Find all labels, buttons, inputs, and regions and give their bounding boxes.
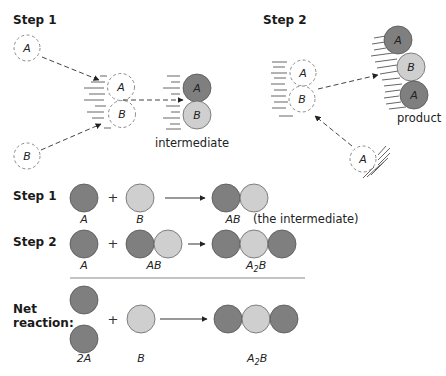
net-reaction-title-line2: reaction: bbox=[13, 316, 74, 330]
product-caption: product bbox=[397, 111, 442, 125]
step2-incoming-a-molecule: A bbox=[350, 146, 376, 172]
step1-collision-a-molecule: A bbox=[108, 74, 135, 101]
svg-text:A: A bbox=[116, 81, 125, 94]
net-label-b: B bbox=[137, 352, 145, 365]
equation-step2-title: Step 2 bbox=[13, 235, 57, 249]
net-plus: + bbox=[108, 312, 119, 327]
svg-text:B: B bbox=[23, 150, 31, 163]
eq2-label-a2b: A2B bbox=[245, 259, 266, 274]
svg-text:A: A bbox=[298, 67, 307, 80]
eq1-atom-a bbox=[70, 184, 98, 212]
intermediate-caption: intermediate bbox=[155, 136, 229, 150]
net-reaction-title-line1: Net bbox=[13, 302, 37, 316]
eq1-label-ab: AB bbox=[224, 213, 240, 226]
step1-a-trajectory-arrow bbox=[42, 57, 99, 80]
eq1-label-a: A bbox=[79, 213, 88, 226]
svg-text:B: B bbox=[118, 108, 126, 121]
step2-intermediate-b-molecule: B bbox=[289, 86, 315, 112]
svg-text:A: A bbox=[409, 89, 418, 102]
step1-collision-b-molecule: B bbox=[109, 101, 136, 128]
eq2-atom-a bbox=[70, 230, 98, 258]
net-product-a2b bbox=[214, 305, 298, 333]
step1-reactant-a-molecule: A bbox=[14, 35, 40, 61]
intermediate-ab-molecule: A B bbox=[183, 74, 211, 129]
eq1-plus: + bbox=[108, 190, 119, 205]
svg-text:B: B bbox=[193, 109, 201, 122]
eq1-intermediate-note: (the intermediate) bbox=[253, 212, 359, 226]
svg-text:A: A bbox=[22, 42, 31, 55]
equation-step1-title: Step 1 bbox=[13, 189, 57, 203]
top-step1-title: Step 1 bbox=[13, 13, 57, 27]
eq2-reactant-ab bbox=[126, 230, 182, 258]
eq2-label-ab: AB bbox=[145, 259, 161, 272]
step2-to-product-arrow bbox=[318, 75, 378, 89]
net-reactant-2a bbox=[70, 286, 98, 353]
top-step2-title: Step 2 bbox=[263, 13, 307, 27]
intermediate-motion-lines bbox=[163, 76, 181, 129]
eq2-label-a: A bbox=[79, 259, 88, 272]
step2-intermediate-motion-lines bbox=[271, 62, 293, 116]
svg-text:A: A bbox=[393, 34, 402, 47]
net-atom-b bbox=[127, 305, 155, 333]
svg-text:B: B bbox=[407, 61, 415, 74]
step1-b-trajectory-arrow bbox=[41, 124, 101, 150]
net-label-2a: 2A bbox=[77, 352, 92, 365]
eq2-product-a2b bbox=[212, 230, 296, 258]
eq1-atom-b bbox=[126, 184, 154, 212]
reaction-mechanism-diagram: Step 1 A B A B bbox=[0, 0, 446, 376]
svg-text:B: B bbox=[298, 93, 306, 106]
step2-incoming-a-trajectory-arrow bbox=[315, 116, 352, 146]
svg-text:A: A bbox=[192, 82, 201, 95]
eq1-product-ab bbox=[212, 184, 268, 212]
step1-reactant-b-molecule: B bbox=[14, 143, 40, 169]
step2-intermediate-a-molecule: A bbox=[290, 60, 316, 86]
eq1-label-b: B bbox=[136, 213, 144, 226]
net-label-a2b: A2B bbox=[246, 352, 267, 367]
svg-text:A: A bbox=[358, 153, 367, 166]
product-a2b-molecule: A B A bbox=[384, 26, 428, 109]
step1-collision-motion-lines bbox=[84, 76, 111, 128]
eq2-plus: + bbox=[108, 236, 119, 251]
